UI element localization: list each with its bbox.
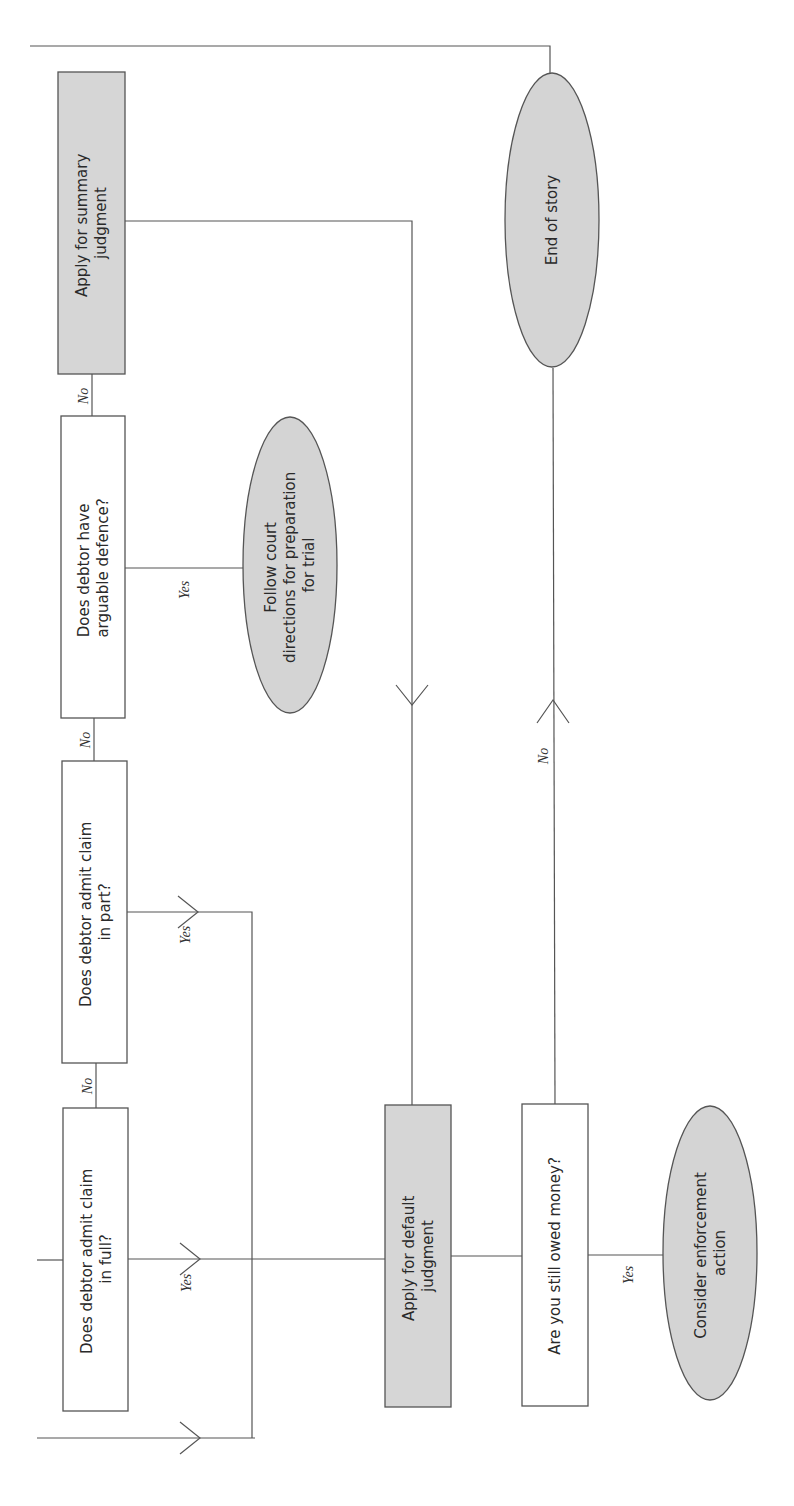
node-admit-part: Does debtor admit claim in part? (62, 761, 127, 1063)
node-label-line: action (711, 1230, 729, 1276)
edge-label-owed-no: No (536, 748, 551, 765)
node-default-judgment: Apply for default judgment (385, 1105, 451, 1407)
node-summary-judgment: Apply for summary judgment (58, 72, 125, 374)
edge-label-owed-yes: Yes (621, 1265, 636, 1284)
node-admit-full: Does debtor admit claim in full? (63, 1108, 128, 1411)
edge-label-defence-no: No (76, 388, 91, 405)
node-label-line: directions for preparation (281, 472, 299, 663)
node-label-line: judgment (92, 187, 110, 260)
node-label-line: Does debtor admit claim (77, 822, 95, 1007)
svg-text:End of story: End of story (543, 175, 561, 266)
svg-text:Does debtor have arguabl: Does debtor have arguable defence? (75, 498, 112, 637)
node-label-line: in full? (97, 1234, 115, 1284)
connector-top-to-end-of-story (30, 46, 550, 73)
node-enforcement: Consider enforcement action (663, 1106, 757, 1400)
node-label-line: for trial (300, 538, 318, 593)
node-label-line: Follow court (262, 522, 280, 613)
edge-label-defence-yes: Yes (177, 580, 192, 599)
edge-label-part-yes: Yes (178, 925, 193, 944)
flowchart-canvas: Apply for summary judgment End of story … (0, 0, 794, 1506)
edge-label-part-no: No (78, 732, 93, 749)
node-label-line: in part? (96, 883, 114, 940)
node-label-line: arguable defence? (94, 498, 112, 637)
node-end-of-story: End of story (505, 73, 599, 367)
svg-text:Are you still owed money?: Are you still owed money? (546, 1157, 564, 1355)
arrowhead-up-owed-no (537, 700, 569, 723)
connector-part-yes (127, 912, 252, 1438)
edge-label-full-yes: Yes (179, 1273, 194, 1292)
connector-owed-no (553, 368, 555, 1104)
node-label-line: Are you still owed money? (546, 1157, 564, 1355)
node-label-line: Does debtor have (75, 504, 93, 638)
node-label-line: judgment (419, 1220, 437, 1293)
node-label-line: Consider enforcement (692, 1172, 710, 1339)
node-label-line: Does debtor admit claim (78, 1169, 96, 1354)
edge-label-full-no: No (80, 1078, 95, 1095)
node-arguable-defence: Does debtor have arguable defence? (61, 416, 125, 718)
node-label-line: Apply for default (400, 1196, 418, 1321)
node-label-line: End of story (543, 175, 561, 266)
node-follow-court-directions: Follow court directions for preparation … (243, 417, 337, 713)
node-still-owed: Are you still owed money? (522, 1104, 588, 1406)
node-label-line: Apply for summary (73, 154, 91, 297)
